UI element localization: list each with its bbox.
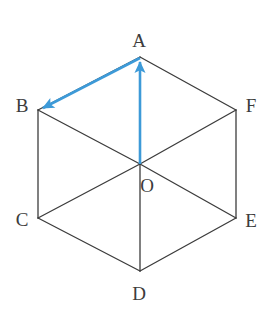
- vertex-label-o: O: [140, 176, 154, 195]
- hexagon-radii-group: [38, 110, 236, 271]
- radius-oe: [140, 164, 236, 218]
- radius-ob: [38, 110, 140, 164]
- hexagon-vector-figure: A B C D E F O: [0, 0, 270, 325]
- vertex-label-f: F: [246, 96, 257, 115]
- vertex-label-a: A: [132, 31, 146, 50]
- vector-ab-arrow: [43, 58, 140, 108]
- hexagon-edge-de: [140, 218, 236, 271]
- vertex-label-b: B: [16, 96, 29, 115]
- hexagon-edge-fa: [140, 57, 236, 110]
- radius-of: [140, 110, 236, 164]
- vertex-label-e: E: [245, 211, 257, 230]
- vertex-label-c: C: [16, 210, 29, 229]
- radius-oc: [38, 164, 140, 218]
- vector-group: [43, 58, 140, 164]
- hexagon-outline-group: [38, 57, 236, 271]
- vertex-label-d: D: [132, 284, 146, 303]
- hexagon-edge-cd: [38, 218, 140, 271]
